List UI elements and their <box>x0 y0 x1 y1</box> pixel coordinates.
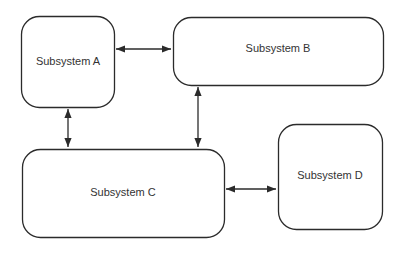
node-label: Subsystem D <box>297 169 362 181</box>
node-subsystem-a[interactable]: Subsystem A <box>22 17 115 108</box>
node-subsystem-c[interactable]: Subsystem C <box>23 150 225 238</box>
node-label: Subsystem B <box>246 42 311 54</box>
node-label: Subsystem C <box>90 186 155 198</box>
node-subsystem-d[interactable]: Subsystem D <box>279 125 383 230</box>
node-subsystem-b[interactable]: Subsystem B <box>174 18 384 86</box>
node-label: Subsystem A <box>36 55 101 67</box>
diagram-canvas: Subsystem A Subsystem B Subsystem C Subs… <box>0 0 402 257</box>
